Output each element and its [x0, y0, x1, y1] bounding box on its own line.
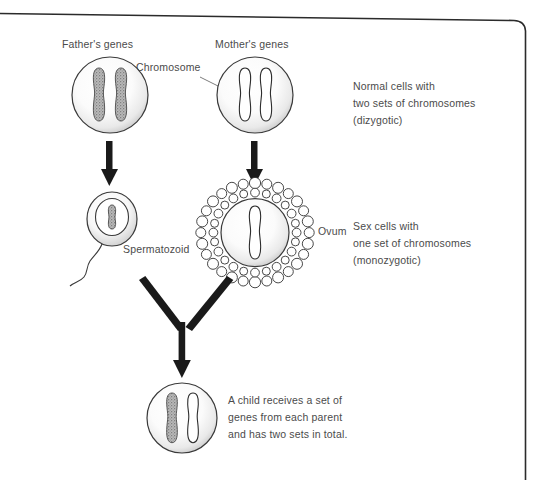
fusion-arrow — [139, 276, 233, 378]
svg-text:Sex cells with: Sex cells with — [353, 220, 419, 232]
sex-cells-annotation: Sex cells with one set of chromosomes (m… — [353, 220, 471, 266]
mothers-genes-label: Mother's genes — [215, 38, 289, 50]
svg-text:(monozygotic): (monozygotic) — [353, 254, 421, 266]
child-cell — [147, 383, 217, 453]
child-cell-annotation: A child receives a set of genes from eac… — [228, 394, 347, 440]
spermatozoid-cell — [70, 192, 137, 286]
normal-cells-annotation: Normal cells with two sets of chromosome… — [353, 80, 476, 126]
chromosome-label: Chromosome — [136, 61, 201, 73]
father-to-sperm-arrow — [101, 141, 118, 186]
mother-cell — [217, 57, 293, 133]
svg-text:two sets of chromosomes: two sets of chromosomes — [353, 97, 476, 109]
svg-text:(dizygotic): (dizygotic) — [353, 114, 403, 126]
fathers-genes-label: Father's genes — [62, 38, 133, 50]
svg-text:A child receives a set of: A child receives a set of — [228, 394, 342, 406]
svg-text:and has two sets in total.: and has two sets in total. — [228, 428, 347, 440]
svg-text:one set of chromosomes: one set of chromosomes — [353, 237, 471, 249]
diagram-page: Father's genes Mother's genes Chromosome… — [0, 0, 534, 480]
svg-text:Normal cells with: Normal cells with — [353, 80, 435, 92]
spermatozoid-label: Spermatozoid — [123, 243, 190, 255]
genetics-diagram: Father's genes Mother's genes Chromosome… — [0, 0, 534, 480]
ovum-cell — [196, 177, 314, 287]
father-cell — [72, 57, 148, 133]
svg-text:genes from each parent: genes from each parent — [228, 411, 342, 423]
ovum-label: Ovum — [318, 225, 347, 237]
